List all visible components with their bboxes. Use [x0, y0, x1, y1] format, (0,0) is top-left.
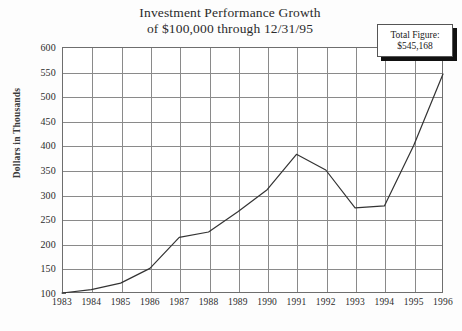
chart-title-line-1: Investment Performance Growth [60, 5, 400, 21]
y-axis-tick-label: 300 [10, 189, 56, 200]
x-axis-tick-group: 1983198419851986198719881989199019911992… [62, 297, 443, 317]
chart-title-line-2: of $100,000 through 12/31/95 [60, 21, 400, 37]
data-series-line [62, 47, 443, 293]
y-axis-tick-label: 600 [10, 42, 56, 53]
y-axis-tick-group: 100150200250300350400450500550600 [6, 47, 56, 293]
series-polyline [62, 74, 443, 293]
y-axis-tick-label: 150 [10, 263, 56, 274]
y-axis-tick-label: 350 [10, 165, 56, 176]
chart-title: Investment Performance Growth of $100,00… [60, 5, 400, 36]
y-axis-tick-label: 450 [10, 115, 56, 126]
y-axis-tick-label: 500 [10, 91, 56, 102]
y-axis-tick-label: 400 [10, 140, 56, 151]
chart-screenshot: Investment Performance Growth of $100,00… [0, 0, 462, 331]
total-figure-value: $545,168 [378, 41, 452, 52]
x-axis-tick-label: 1996 [423, 297, 462, 307]
y-axis-tick-label: 200 [10, 238, 56, 249]
total-figure-callout: Total Figure: $545,168 [377, 24, 453, 57]
total-figure-label: Total Figure: [378, 30, 452, 41]
y-axis-tick-label: 550 [10, 66, 56, 77]
total-figure-card: Total Figure: $545,168 [377, 24, 453, 57]
y-axis-tick-label: 250 [10, 214, 56, 225]
